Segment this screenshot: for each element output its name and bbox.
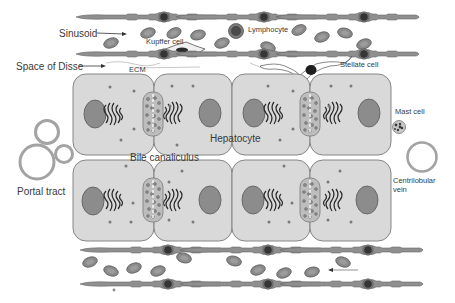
label-centrilobular-vein-line2: vein [393, 186, 407, 194]
label-centrilobular-vein: Centrilobular [393, 177, 436, 185]
label-kupffer-cell: Kupffer cell [146, 38, 183, 46]
liver-lobule-diagram: Sinusoid Kupffer cell Lymphocyte Space o… [0, 0, 455, 303]
label-hepatocyte: Hepatocyte [210, 134, 261, 144]
label-lymphocyte: Lymphocyte [248, 26, 288, 34]
label-bile-canaliculus: Bile canaliculus [130, 153, 199, 163]
portal-tract [20, 121, 73, 180]
label-ecm: ECM [129, 66, 146, 74]
centrilobular-vein [408, 143, 437, 172]
bottom-sinusoid [80, 245, 423, 292]
endothelial-lining-upper [76, 12, 419, 22]
top-sinusoid [76, 12, 419, 59]
lymphocyte [229, 24, 244, 39]
hepatocyte-row-2 [73, 160, 391, 241]
hepatocyte [310, 160, 391, 241]
label-space-of-disse: Space of Disse [16, 62, 83, 72]
label-portal-tract: Portal tract [17, 187, 65, 197]
mast-cell [393, 121, 406, 134]
label-stellate-cell: Stellate cell [340, 61, 378, 69]
label-sinusoid: Sinusoid [59, 29, 97, 39]
label-mast-cell: Mast cell [395, 108, 425, 116]
flow-arrow [328, 268, 358, 272]
endothelial-lining-lower [76, 49, 419, 59]
